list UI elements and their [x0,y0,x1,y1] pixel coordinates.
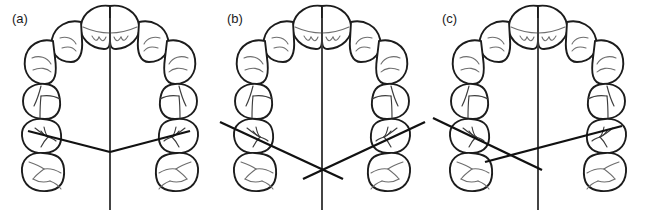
upper-left-second-premolar [587,119,626,153]
upper-right-lateral-incisor [51,21,82,62]
panel-b-arch-diagram [215,0,430,220]
upper-right-central-incisor [81,6,110,49]
upper-left-second-premolar [371,119,410,153]
upper-right-lateral-incisor [263,21,294,62]
upper-right-first-premolar [23,84,60,119]
upper-left-canine [164,40,195,84]
upper-left-canine [376,40,407,84]
upper-right-first-molar [22,153,64,191]
panel-b: (b) [215,0,430,220]
upper-left-first-molar [156,153,198,191]
upper-left-first-premolar [160,84,197,119]
panel-c-arch-diagram [430,0,645,220]
upper-left-lateral-incisor [566,21,597,62]
upper-right-first-premolar [235,84,272,119]
upper-left-first-molar [368,153,410,191]
upper-right-lateral-incisor [479,21,510,62]
upper-left-lateral-incisor [138,21,169,62]
panel-a-arch-diagram [0,0,215,220]
upper-right-second-premolar [234,119,273,153]
upper-left-central-incisor [538,6,567,49]
panel-a: (a) [0,0,215,220]
upper-left-central-incisor [110,6,139,49]
panel-c: (c) [430,0,645,220]
upper-right-first-molar [234,153,276,191]
upper-right-first-premolar [451,84,488,119]
upper-left-central-incisor [322,6,351,49]
upper-left-lateral-incisor [350,21,381,62]
dental-arch-midline-figure: (a) [0,0,645,220]
upper-left-first-premolar [588,84,625,119]
upper-right-canine [453,40,484,84]
upper-left-canine [592,40,623,84]
upper-right-central-incisor [293,6,322,49]
upper-left-first-premolar [372,84,409,119]
upper-left-first-molar [584,153,626,191]
upper-left-second-premolar [159,119,198,153]
upper-right-central-incisor [509,6,538,49]
upper-right-second-premolar [22,119,61,153]
upper-right-first-molar [450,153,492,191]
upper-right-canine [25,40,56,84]
upper-right-canine [237,40,268,84]
